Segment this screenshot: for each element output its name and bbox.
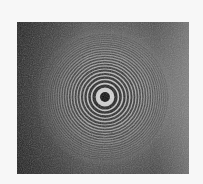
interference-photo [17,22,189,174]
